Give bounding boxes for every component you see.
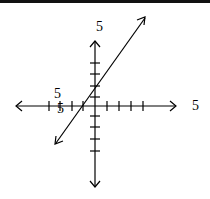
plotted-line	[56, 18, 145, 143]
x-axis-min-label: 5	[54, 87, 61, 101]
y-axis-min-label: 5	[57, 102, 64, 116]
coordinate-plane	[0, 0, 210, 199]
x-axis-max-label: 5	[192, 99, 199, 113]
y-axis-max-label: 5	[96, 20, 103, 34]
